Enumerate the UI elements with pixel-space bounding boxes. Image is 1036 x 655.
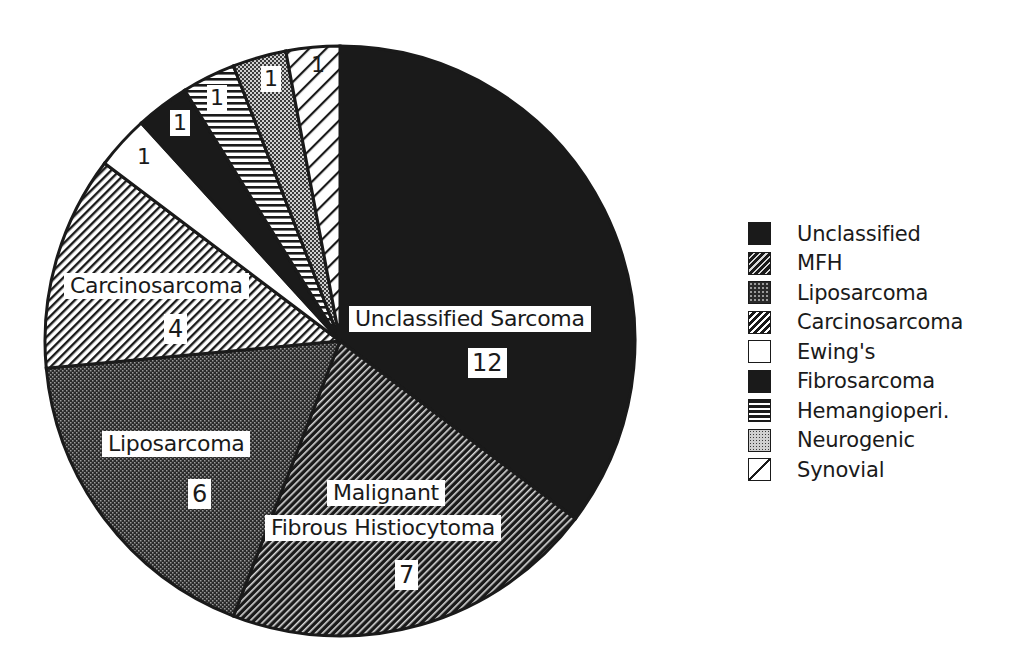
legend-label: Carcinosarcoma bbox=[797, 310, 963, 334]
legend-item-carcinosarcoma: Carcinosarcoma bbox=[748, 308, 963, 338]
legend-label: Neurogenic bbox=[797, 428, 915, 452]
legend-swatch-diagonal-light bbox=[748, 311, 771, 334]
legend-label: Fibrosarcoma bbox=[797, 369, 935, 393]
slice-count-ewings: 1 bbox=[134, 144, 154, 170]
slice-label-unclassified: Unclassified Sarcoma bbox=[349, 306, 591, 332]
legend-swatch-checker-light bbox=[748, 429, 771, 452]
slice-count-hemangioperi: 1 bbox=[207, 85, 227, 111]
legend-swatch-solid-dark bbox=[748, 222, 771, 245]
legend-swatch-checker-dark bbox=[748, 281, 771, 304]
slice-label-carcinosarcoma: Carcinosarcoma bbox=[64, 273, 249, 299]
slice-count-synovial: 1 bbox=[308, 52, 328, 78]
legend-swatch-diagonal-dense bbox=[748, 252, 771, 275]
slice-label-mfh-line2: Fibrous Histiocytoma bbox=[265, 515, 501, 541]
legend-swatch-diagonal-sparse bbox=[748, 458, 771, 481]
slice-count-liposarcoma: 6 bbox=[188, 479, 211, 509]
slice-count-unclassified: 12 bbox=[468, 348, 507, 378]
legend-swatch-horizontal-lines bbox=[748, 399, 771, 422]
legend-item-ewings: Ewing's bbox=[748, 337, 963, 367]
legend-item-liposarcoma: Liposarcoma bbox=[748, 278, 963, 308]
legend-label: Synovial bbox=[797, 458, 884, 482]
legend-item-mfh: MFH bbox=[748, 249, 963, 279]
legend-item-hemangioperi: Hemangioperi. bbox=[748, 396, 963, 426]
slice-count-carcinosarcoma: 4 bbox=[164, 314, 187, 344]
legend-label: Hemangioperi. bbox=[797, 399, 949, 423]
legend-item-neurogenic: Neurogenic bbox=[748, 426, 963, 456]
legend-item-unclassified: Unclassified bbox=[748, 219, 963, 249]
legend-item-fibrosarcoma: Fibrosarcoma bbox=[748, 367, 963, 397]
legend-label: MFH bbox=[797, 251, 842, 275]
legend-label: Liposarcoma bbox=[797, 281, 928, 305]
pie-chart: Unclassified Sarcoma 12 Malignant Fibrou… bbox=[0, 0, 700, 655]
legend-item-synovial: Synovial bbox=[748, 455, 963, 485]
slice-count-mfh: 7 bbox=[395, 560, 418, 590]
legend-label: Ewing's bbox=[797, 340, 875, 364]
slice-count-fibrosarcoma: 1 bbox=[170, 110, 190, 136]
legend-swatch-white bbox=[748, 340, 771, 363]
slice-count-neurogenic: 1 bbox=[261, 66, 281, 92]
slice-label-liposarcoma: Liposarcoma bbox=[102, 431, 250, 457]
legend-label: Unclassified bbox=[797, 222, 921, 246]
slice-label-mfh-line1: Malignant bbox=[327, 480, 445, 506]
legend-swatch-solid-dark bbox=[748, 370, 771, 393]
legend: Unclassified MFH Liposarcoma Carcinosarc… bbox=[748, 219, 963, 485]
